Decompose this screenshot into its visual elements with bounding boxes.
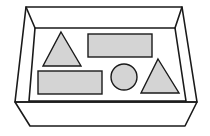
box-diagram [0,0,210,136]
triangle-right-shape [141,59,179,93]
box-corner-edge-top-left [26,7,35,28]
triangle-left-shape [43,32,81,66]
circle-shape [111,64,137,90]
box-corner-edge-top-right [175,7,182,28]
box-front-face [15,102,197,126]
shapes-group [38,32,179,94]
rectangle-bottom-shape [38,71,102,94]
rectangle-top-shape [88,34,152,57]
